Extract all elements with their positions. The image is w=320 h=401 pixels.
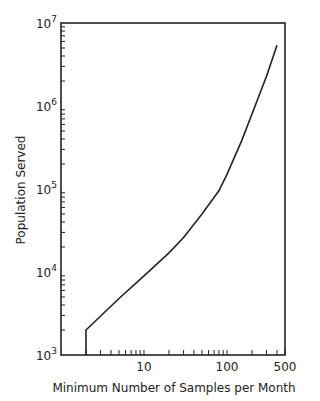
y-tick-label: 107 bbox=[36, 14, 57, 31]
axis-ticks bbox=[61, 27, 285, 355]
y-tick-label: 106 bbox=[36, 97, 57, 114]
data-curve bbox=[86, 45, 277, 355]
x-tick-label: 100 bbox=[216, 360, 239, 374]
y-tick-label: 105 bbox=[36, 180, 57, 197]
x-axis-title: Minimum Number of Samples per Month bbox=[52, 381, 295, 395]
y-axis-title: Population Served bbox=[14, 136, 28, 245]
x-tick-label: 500 bbox=[274, 360, 297, 374]
y-tick-label: 104 bbox=[36, 263, 57, 280]
y-tick-label: 103 bbox=[36, 346, 57, 363]
plot-frame bbox=[61, 23, 285, 355]
x-tick-labels: 10100500 bbox=[136, 360, 296, 374]
x-tick-label: 10 bbox=[136, 360, 151, 374]
chart: 10100500 103104105106107 Minimum Number … bbox=[0, 0, 320, 401]
y-tick-labels: 103104105106107 bbox=[36, 14, 57, 363]
